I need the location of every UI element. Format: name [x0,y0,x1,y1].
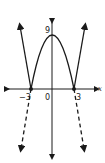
graph-svg: 9 −3 0 3 x [0,0,105,163]
origin-label: 0 [45,93,50,102]
right-arm-solid [74,26,85,89]
y-intercept-label: 9 [45,26,50,35]
right-root-label: 3 [76,93,81,102]
left-root-point [29,87,33,91]
x-axis-label: x [98,85,102,93]
left-arm-solid [20,26,31,89]
left-root-label: −3 [19,93,31,102]
graph-figure: 9 −3 0 3 x [0,0,105,163]
right-root-point [72,87,76,91]
